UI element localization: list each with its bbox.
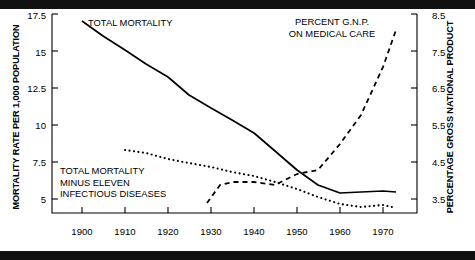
series-total-mortality	[82, 21, 396, 193]
axis-spines	[52, 14, 417, 213]
axis-ticks	[52, 14, 417, 213]
series-total-mortality-minus-infectious	[125, 150, 396, 208]
series-percent-gnp-medical-care	[207, 30, 396, 203]
chart-figure: MORTALITY RATE PER 1,000 POPULATION PERC…	[0, 0, 475, 260]
chart-canvas	[0, 0, 475, 260]
